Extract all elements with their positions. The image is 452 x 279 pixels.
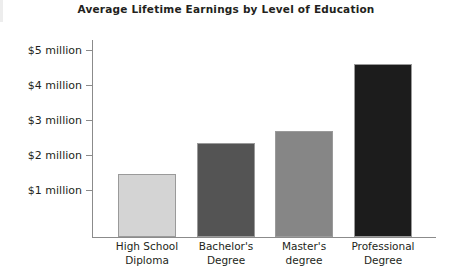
x-axis-label-bachelors-degree: Bachelor's Degree — [182, 240, 270, 267]
bar-masters-degree — [275, 131, 333, 238]
bar-bachelors-degree — [197, 143, 255, 237]
y-axis-label-5: $5 million — [28, 44, 82, 57]
y-axis-tick-1 — [86, 190, 93, 191]
x-axis-label-masters-degree: Master's degree — [260, 240, 348, 267]
y-axis-label-3: $3 million — [28, 114, 82, 127]
y-axis-label-1: $1 million — [28, 184, 82, 197]
x-axis-label-line1: High School — [116, 240, 178, 252]
y-axis-tick-5 — [86, 50, 93, 51]
x-axis-label-line2: Diploma — [103, 254, 191, 268]
y-axis-tick-4 — [86, 85, 93, 86]
plot-area: $5 million $4 million $3 million $2 mill… — [0, 0, 452, 279]
x-axis-label-line2: degree — [260, 254, 348, 268]
x-axis-label-high-school-diploma: High School Diploma — [103, 240, 191, 267]
y-axis-label-2: $2 million — [28, 149, 82, 162]
x-axis-label-line2: Degree — [182, 254, 270, 268]
x-axis-label-line1: Bachelor's — [199, 240, 254, 252]
bar-chart-figure: Average Lifetime Earnings by Level of Ed… — [0, 0, 452, 279]
bar-professional-degree — [354, 64, 412, 237]
bar-high-school-diploma — [118, 174, 176, 237]
y-axis-tick-3 — [86, 120, 93, 121]
x-axis-label-professional-degree: Professional Degree — [339, 240, 427, 267]
y-axis-tick-2 — [86, 155, 93, 156]
x-axis-label-line2: Degree — [339, 254, 427, 268]
x-axis-label-line1: Professional — [351, 240, 414, 252]
y-axis-label-4: $4 million — [28, 79, 82, 92]
x-axis-label-line1: Master's — [282, 240, 326, 252]
y-axis-line — [92, 40, 93, 238]
x-axis-line — [92, 237, 436, 238]
